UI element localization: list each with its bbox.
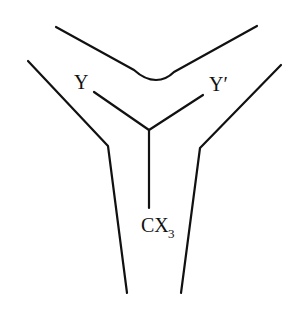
y-channel-diagram: Y Y′ CX 3 [0,0,302,311]
bond-left [94,92,149,130]
label-y: Y [74,71,88,93]
label-cx: CX [141,214,169,236]
bond-right [149,95,203,130]
label-cx-subscript: 3 [168,226,175,241]
left-wall-outline [28,61,127,293]
label-y-prime: Y′ [209,73,228,95]
